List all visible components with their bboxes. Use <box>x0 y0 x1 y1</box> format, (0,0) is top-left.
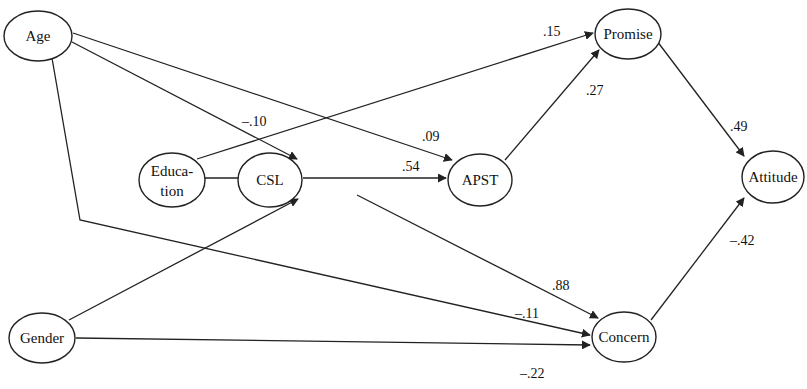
node-education: Educa- tion <box>139 153 205 207</box>
node-csl-label: CSL <box>256 172 284 188</box>
edge-csl-concern <box>357 195 598 318</box>
edge-apst-promise <box>505 50 599 160</box>
edge-gender-csl <box>69 199 298 320</box>
node-attitude-label: Attitude <box>748 169 798 185</box>
coef-promise-attitude: .49 <box>730 119 748 134</box>
coefficients: –.10 .09 –.11 .73 .15 –.28 –.22 .54 .88 … <box>241 24 755 381</box>
edge-promise-attitude <box>657 41 744 156</box>
node-csl: CSL <box>238 153 302 207</box>
node-gender-label: Gender <box>20 330 64 346</box>
coef-education-promise: .15 <box>543 24 561 39</box>
edge-gender-concern <box>76 338 590 345</box>
coef-age-concern: –.11 <box>514 306 539 321</box>
node-promise: Promise <box>595 9 661 59</box>
node-age: Age <box>4 11 72 61</box>
node-education-label-line2: tion <box>160 183 184 199</box>
node-apst-label: APST <box>462 172 499 188</box>
node-gender: Gender <box>9 313 75 363</box>
edge-age-concern <box>52 58 590 335</box>
node-concern-label: Concern <box>599 329 650 345</box>
path-diagram: –.10 .09 –.11 .73 .15 –.28 –.22 .54 .88 … <box>0 0 807 389</box>
node-promise-label: Promise <box>603 26 653 42</box>
edge-age-csl <box>72 42 297 159</box>
node-attitude: Attitude <box>742 151 804 203</box>
edge-concern-attitude <box>651 198 744 320</box>
node-apst: APST <box>448 154 512 206</box>
node-age-label: Age <box>26 28 51 44</box>
coef-gender-concern: –.22 <box>519 366 545 381</box>
coef-csl-apst: .54 <box>402 159 420 174</box>
coef-age-apst: .09 <box>422 129 440 144</box>
coef-age-csl: –.10 <box>241 114 267 129</box>
node-concern: Concern <box>592 312 656 362</box>
coef-concern-attitude: –.42 <box>729 233 755 248</box>
coef-apst-promise: .27 <box>586 83 604 98</box>
edge-education-promise <box>197 33 593 159</box>
node-education-label-line1: Educa- <box>151 163 193 179</box>
coef-csl-concern: .88 <box>552 278 570 293</box>
